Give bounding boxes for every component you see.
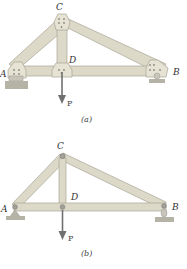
truss-a: C A D B P (a): [0, 2, 180, 124]
pin-C: [60, 153, 65, 158]
support-A-base: [5, 81, 28, 89]
support-B-roller-b: [161, 209, 167, 217]
label-C-b: C: [57, 141, 64, 151]
member-AC-b: [12, 154, 66, 210]
truss-b: C A D B P (b): [0, 141, 179, 258]
caption-b: (b): [81, 249, 92, 258]
label-P-b: P: [68, 234, 74, 243]
arrow-head-a: [58, 95, 66, 104]
label-C-a: C: [56, 2, 63, 12]
label-A-b: A: [0, 204, 8, 214]
member-CD-b: [59, 158, 66, 206]
support-B-base-b: [155, 217, 174, 222]
truss-diagram: C A D B P (a) C A D B P (b): [0, 0, 187, 269]
label-D-b: D: [70, 192, 78, 202]
label-D-a: D: [68, 55, 76, 65]
pin-D: [60, 205, 65, 210]
caption-a: (a): [81, 115, 92, 124]
arrow-head-b: [59, 231, 67, 240]
label-A-a: A: [0, 69, 7, 79]
pin-B: [162, 204, 167, 209]
pin-A: [13, 205, 18, 210]
label-P-a: P: [67, 99, 73, 108]
member-AB: [12, 66, 164, 76]
support-B-roller: [154, 73, 160, 79]
support-A-fixed: [9, 76, 23, 81]
support-A-base-b: [6, 216, 25, 220]
member-CB-b: [63, 153, 166, 210]
label-B-b: B: [171, 202, 179, 212]
member-AB-b: [14, 203, 166, 211]
support-B-base: [149, 79, 165, 83]
label-B-a: B: [172, 67, 180, 77]
